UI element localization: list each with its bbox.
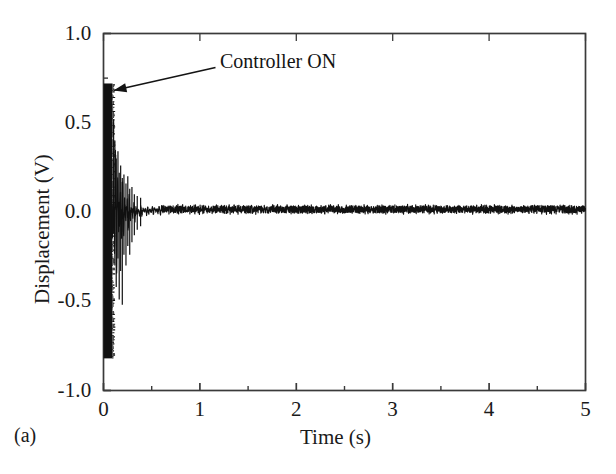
x-tick-label: 1 bbox=[189, 397, 211, 422]
x-tick-label: 0 bbox=[93, 397, 115, 422]
y-tick-label: 0.5 bbox=[0, 110, 92, 135]
annotation-controller-on: Controller ON bbox=[220, 50, 336, 73]
x-tick-label: 4 bbox=[478, 397, 500, 422]
figure-panel-a: 1.0 0.5 0.0 -0.5 -1.0 0 1 2 3 4 5 Displa… bbox=[0, 0, 616, 474]
x-tick-label: 5 bbox=[575, 397, 597, 422]
x-tick-label: 2 bbox=[285, 397, 307, 422]
panel-label: (a) bbox=[14, 424, 36, 447]
x-tick-label: 3 bbox=[382, 397, 404, 422]
displacement-waveform bbox=[104, 83, 586, 358]
y-tick-label: -1.0 bbox=[0, 378, 92, 403]
x-axis-label: Time (s) bbox=[300, 425, 371, 450]
y-axis-label: Displacement (V) bbox=[30, 154, 55, 304]
controller-on-arrow bbox=[114, 68, 216, 93]
y-tick-label: 1.0 bbox=[0, 21, 92, 46]
